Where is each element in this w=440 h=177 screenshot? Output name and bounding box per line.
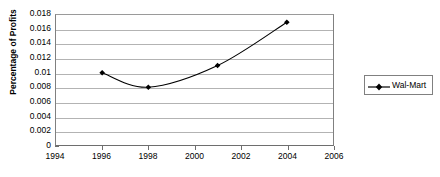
x-axis-tick-label: 1996 <box>80 151 124 161</box>
series-line <box>102 22 287 87</box>
plot-area <box>55 14 334 146</box>
data-point-marker[interactable] <box>99 70 105 76</box>
x-axis-tick-label: 2002 <box>219 151 263 161</box>
x-axis-tick-mark <box>334 146 335 150</box>
x-axis-tick-label: 2004 <box>266 151 310 161</box>
y-axis-tick-label: 0.014 <box>7 38 51 47</box>
data-point-marker[interactable] <box>215 63 221 69</box>
data-point-marker[interactable] <box>284 19 290 25</box>
y-axis-tick-label: 0.004 <box>7 112 51 121</box>
series-layer <box>56 15 333 145</box>
x-axis-tick-mark <box>288 146 289 150</box>
legend-entry-label: Wal-Mart <box>390 80 426 90</box>
y-axis-tick-label: 0.002 <box>7 126 51 135</box>
x-axis-tick-mark <box>195 146 196 150</box>
line-chart: Percentage of Profits 00.0020.0040.0060.… <box>0 0 440 177</box>
y-axis-tick-label: 0.018 <box>7 9 51 18</box>
x-axis-tick-label: 2006 <box>312 151 356 161</box>
y-axis-tick-label: 0.016 <box>7 24 51 33</box>
x-axis-tick-mark <box>241 146 242 150</box>
y-axis-tick-label: 0.008 <box>7 82 51 91</box>
legend-marker-icon <box>368 79 390 91</box>
x-axis-tick-label: 1998 <box>126 151 170 161</box>
y-axis-tick-label: 0.012 <box>7 53 51 62</box>
y-axis-tick-label: 0.01 <box>7 68 51 77</box>
chart-legend[interactable]: Wal-Mart <box>364 75 433 95</box>
x-axis-tick-mark <box>148 146 149 150</box>
data-point-marker[interactable] <box>146 84 152 90</box>
y-axis-tick-label: 0.006 <box>7 97 51 106</box>
y-axis-tick-label: 0 <box>7 141 51 150</box>
x-axis-tick-label: 2000 <box>173 151 217 161</box>
x-axis-tick-mark <box>102 146 103 150</box>
y-axis-tick-mark <box>55 146 59 147</box>
x-axis-tick-label: 1994 <box>33 151 77 161</box>
